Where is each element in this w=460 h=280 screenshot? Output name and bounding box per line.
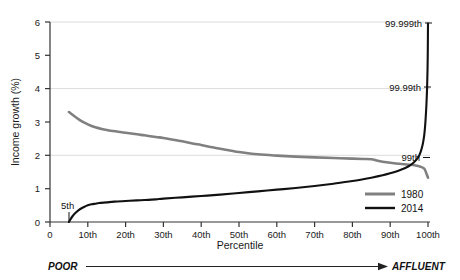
x-tick-label-2: 20th <box>116 229 135 240</box>
y-tick-label-4: 4 <box>35 83 40 94</box>
x-tick-label-8: 80th <box>343 229 362 240</box>
scale-label-poor: POOR <box>48 261 78 272</box>
line-1980 <box>69 112 428 178</box>
legend: 1980 2014 <box>365 189 424 214</box>
y-tick-label-2: 2 <box>35 150 40 161</box>
x-tick-label-4: 40th <box>192 229 211 240</box>
x-axis-title: Percentile <box>217 239 264 251</box>
legend-label-2014: 2014 <box>401 203 424 214</box>
annot-label-5th: 5th <box>61 200 74 211</box>
y-axis-title: Income growth (%) <box>9 78 21 166</box>
y-tick-label-3: 3 <box>35 117 40 128</box>
x-tick-label-1: 10th <box>79 229 98 240</box>
annotations: 5th 99th 99.99th 99.999th <box>61 18 432 222</box>
scale-bar: POOR AFFLUENT <box>48 261 446 272</box>
x-tick-label-6: 60th <box>268 229 287 240</box>
scale-bar-arrow-icon <box>378 263 388 270</box>
chart-canvas: 0 1 2 3 4 5 6 Income growth (%) 010th20t… <box>0 0 460 280</box>
y-tick-label-1: 1 <box>35 183 40 194</box>
annot-label-99th: 99th <box>402 152 421 163</box>
x-tick-label-9: 90th <box>381 229 400 240</box>
annot-label-99-99th: 99.99th <box>389 82 421 93</box>
y-axis: 0 1 2 3 4 5 6 Income growth (%) <box>9 17 50 228</box>
income-growth-chart: 0 1 2 3 4 5 6 Income growth (%) 010th20t… <box>0 0 460 280</box>
y-tick-label-5: 5 <box>35 50 40 61</box>
series-group <box>69 24 428 222</box>
x-axis: 010th20th30th40th50th60th70th80th90th100… <box>47 222 440 251</box>
y-tick-label-6: 6 <box>35 17 40 28</box>
x-tick-label-7: 70th <box>305 229 324 240</box>
x-tick-label-10: 100th <box>416 229 440 240</box>
x-tick-label-3: 30th <box>154 229 173 240</box>
annot-label-99-999th: 99.999th <box>385 18 422 29</box>
y-tick-label-0: 0 <box>35 217 40 228</box>
legend-label-1980: 1980 <box>401 189 424 200</box>
line-2014 <box>69 24 428 222</box>
scale-label-affluent: AFFLUENT <box>391 261 446 272</box>
gridlines <box>50 22 430 155</box>
x-tick-label-0: 0 <box>47 229 52 240</box>
